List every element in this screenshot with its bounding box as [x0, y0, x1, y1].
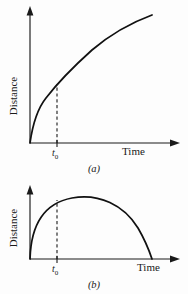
y-axis-arrowhead-b — [27, 185, 34, 195]
panel-b-curve — [30, 197, 152, 259]
panel-b-t0-label: t0 — [52, 263, 59, 277]
x-axis-arrowhead-b — [170, 255, 180, 262]
panel-b-caption: (b) — [88, 279, 101, 291]
panel-b-xlabel: Time — [137, 261, 160, 273]
panel-b-ylabel: Distance — [7, 209, 19, 248]
panel-b-chart: Distance Time t0 (b) — [0, 0, 188, 294]
figure-sheet: Distance Time t0 (a) Distance Time — [0, 0, 188, 294]
panel-b-t0-subscript: 0 — [55, 269, 59, 277]
